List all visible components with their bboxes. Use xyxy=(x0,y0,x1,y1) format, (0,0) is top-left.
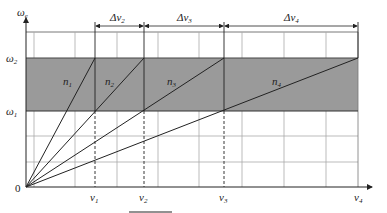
origin-label: 0 xyxy=(15,182,21,194)
y-tick-omega2: ω2 xyxy=(6,52,18,66)
y-axis-label: ωe xyxy=(17,6,28,20)
x-tick-v1: v1 xyxy=(90,191,98,205)
gear-speed-diagram: ωe ω2 ω1 0 v1 v2 v3 v4 n1 n2 n3 n4 Δv2 Δ… xyxy=(0,0,387,213)
x-tick-v2: v2 xyxy=(139,191,148,205)
interval-label-dv2: Δv2 xyxy=(109,11,125,25)
interval-label-dv4: Δv4 xyxy=(283,11,299,25)
x-tick-v4: v4 xyxy=(354,191,363,205)
interval-label-dv3: Δv3 xyxy=(176,11,192,25)
engine-speed-band xyxy=(26,58,358,111)
y-tick-omega1: ω1 xyxy=(6,105,17,119)
x-tick-v3: v3 xyxy=(219,191,228,205)
